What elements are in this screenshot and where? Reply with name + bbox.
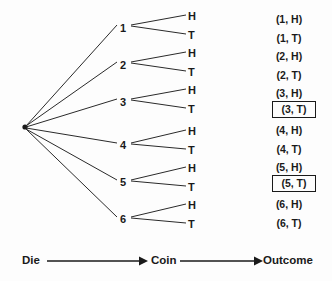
stage-label-die: Die [22, 254, 40, 266]
outcome-4-t[interactable]: (4, T) [262, 142, 316, 157]
coin-node-2-t[interactable]: T [188, 67, 202, 78]
outcome-3-h[interactable]: (3, H) [262, 86, 316, 101]
coin-node-6-t[interactable]: T [188, 219, 202, 230]
probability-tree-diagram: 1 2 3 4 5 6 H T H T H T H T H T H T (1, … [0, 0, 332, 281]
coin-node-5-h[interactable]: H [188, 163, 202, 174]
outcome-5-h[interactable]: (5, H) [262, 160, 316, 175]
arrowhead-to-coin-icon [139, 257, 148, 266]
coin-node-4-h[interactable]: H [188, 126, 202, 137]
die-branch-edges [26, 25, 117, 217]
outcome-6-h[interactable]: (6, H) [262, 197, 316, 212]
outcome-1-t[interactable]: (1, T) [262, 31, 316, 46]
coin-node-4-t[interactable]: T [188, 145, 202, 156]
die-node-5[interactable]: 5 [116, 177, 130, 188]
stage-label-coin: Coin [151, 254, 177, 266]
coin-node-3-t[interactable]: T [188, 104, 202, 115]
outcome-2-t[interactable]: (2, T) [262, 68, 316, 83]
stage-label-outcome: Outcome [263, 254, 313, 266]
outcome-6-t[interactable]: (6, T) [262, 216, 316, 231]
coin-node-6-h[interactable]: H [188, 200, 202, 211]
coin-node-3-h[interactable]: H [188, 85, 202, 96]
outcome-2-h[interactable]: (2, H) [262, 49, 316, 64]
coin-branch-edges [131, 15, 186, 223]
outcome-3-t-highlighted[interactable]: (3, T) [272, 101, 316, 118]
coin-node-1-h[interactable]: H [188, 11, 202, 22]
outcome-5-t-highlighted[interactable]: (5, T) [272, 175, 316, 192]
die-node-2[interactable]: 2 [116, 60, 130, 71]
arrowhead-to-outcome-icon [254, 257, 263, 266]
coin-node-5-t[interactable]: T [188, 182, 202, 193]
coin-node-2-h[interactable]: H [188, 48, 202, 59]
die-node-6[interactable]: 6 [116, 214, 130, 225]
die-node-4[interactable]: 4 [116, 140, 130, 151]
die-node-1[interactable]: 1 [116, 23, 130, 34]
outcome-4-h[interactable]: (4, H) [262, 123, 316, 138]
coin-node-1-t[interactable]: T [188, 30, 202, 41]
outcome-1-h[interactable]: (1, H) [262, 12, 316, 27]
die-node-3[interactable]: 3 [116, 97, 130, 108]
